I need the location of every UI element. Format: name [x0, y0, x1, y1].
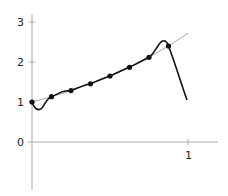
reference-line	[32, 33, 188, 102]
y-tick-label-1: 1	[17, 96, 24, 109]
chart: 3 2 1 0 1	[0, 0, 228, 196]
x-tick-label-1: 1	[185, 149, 192, 162]
sample-points	[29, 43, 171, 104]
y-tick-label-0: 0	[17, 136, 24, 149]
y-tick-label-3: 3	[17, 16, 24, 29]
y-tick-label-2: 2	[17, 56, 24, 69]
